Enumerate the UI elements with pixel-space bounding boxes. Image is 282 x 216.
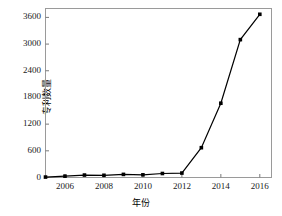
data-point-marker <box>161 172 165 176</box>
y-tick-label: 3000 <box>8 38 41 48</box>
data-point-marker <box>122 173 126 177</box>
y-tick-label: 2400 <box>8 65 41 75</box>
x-tick-label: 2008 <box>84 181 124 191</box>
x-tick-label: 2012 <box>162 181 202 191</box>
data-point-marker <box>258 12 262 16</box>
plot-frame <box>46 9 272 178</box>
data-point-marker <box>219 101 223 105</box>
x-tick-label: 2016 <box>240 181 280 191</box>
data-point-marker <box>239 38 243 42</box>
x-tick-label: 2006 <box>45 181 85 191</box>
chart-figure: 专利数量 年份 060012001800240030003600 2006200… <box>0 0 282 216</box>
y-tick-label: 0 <box>8 172 41 182</box>
data-point-marker <box>63 174 67 178</box>
data-point-marker <box>44 175 48 179</box>
y-tick-label: 3600 <box>8 11 41 21</box>
data-point-marker <box>180 171 184 175</box>
y-axis-ticks <box>46 17 50 177</box>
data-line <box>46 14 260 177</box>
y-tick-label: 1200 <box>8 118 41 128</box>
data-point-marker <box>200 146 204 150</box>
data-point-marker <box>102 173 106 177</box>
x-tick-label: 2010 <box>123 181 163 191</box>
data-point-marker <box>141 173 145 177</box>
y-tick-label: 600 <box>8 145 41 155</box>
data-markers <box>44 12 262 178</box>
y-tick-label: 1800 <box>8 91 41 101</box>
data-point-marker <box>83 173 87 177</box>
x-tick-label: 2014 <box>201 181 241 191</box>
